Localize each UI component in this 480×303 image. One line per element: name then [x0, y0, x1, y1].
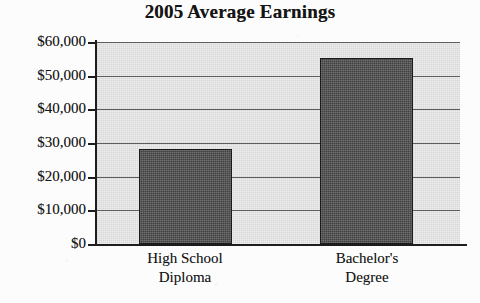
- bar: [139, 149, 232, 244]
- category-label-line: High School: [105, 249, 265, 268]
- category-label-line: Diploma: [105, 268, 265, 287]
- y-axis-tick-labels: $60,000$50,000$40,000$30,000$20,000$10,0…: [0, 0, 86, 303]
- category-label: Bachelor'sDegree: [287, 249, 447, 287]
- y-axis-tick-label: $60,000: [0, 33, 86, 50]
- bar: [320, 58, 413, 244]
- y-axis-tick-label: $30,000: [0, 134, 86, 151]
- plot-area: [96, 42, 460, 244]
- y-axis-tick-mark: [88, 143, 97, 145]
- bar-chart: 2005 Average Earnings $60,000$50,000$40,…: [0, 0, 480, 303]
- y-axis-tick-mark: [88, 42, 97, 44]
- category-label-line: Bachelor's: [287, 249, 447, 268]
- x-axis-line: [88, 244, 467, 246]
- y-axis-tick-mark: [88, 109, 97, 111]
- y-axis-tick-mark: [88, 210, 97, 212]
- y-axis-tick-label: $40,000: [0, 100, 86, 117]
- y-axis-tick-label: $50,000: [0, 67, 86, 84]
- y-axis-tick-mark: [88, 76, 97, 78]
- y-axis-tick-mark: [88, 177, 97, 179]
- y-axis-tick-label: $20,000: [0, 168, 86, 185]
- category-label-line: Degree: [287, 268, 447, 287]
- gridline: [96, 42, 460, 43]
- y-axis-tick-label: $10,000: [0, 201, 86, 218]
- y-axis-tick-label: $0: [0, 235, 86, 252]
- category-label: High SchoolDiploma: [105, 249, 265, 287]
- y-axis-tick-mark: [88, 244, 97, 246]
